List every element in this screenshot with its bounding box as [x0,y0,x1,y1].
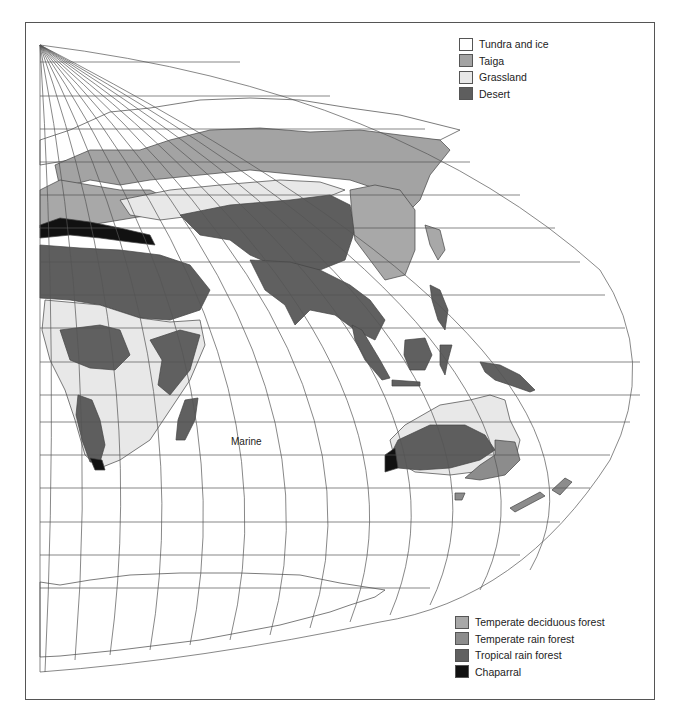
legend-label: Desert [479,88,510,100]
legend-label: Tundra and ice [479,38,549,50]
legend-item-temperate-rain-forest: Temperate rain forest [455,631,605,647]
legend-label: Chaparral [475,666,521,678]
temperate-rain-swatch [455,632,469,645]
grassland-swatch [459,71,473,84]
japan [425,225,445,260]
legend-label: Temperate rain forest [475,633,574,645]
legend-label: Tropical rain forest [475,649,562,661]
legend-item-tundra: Tundra and ice [459,36,549,52]
legend-label: Temperate deciduous forest [475,616,605,628]
tropical-rain-swatch [455,649,469,662]
legend-item-desert: Desert [459,86,549,102]
temperate-deciduous-east-asia [350,185,415,280]
legend-bottom: Temperate deciduous forest Temperate rai… [455,614,605,680]
chaparral-swatch [455,665,469,678]
taiga-swatch [459,54,473,67]
antarctica [40,573,385,657]
grassland-africa [42,300,205,468]
legend-top: Tundra and ice Taiga Grassland Desert [459,36,549,102]
madagascar [176,398,198,440]
temperate-deciduous-swatch [455,616,469,629]
land-regions [40,98,572,657]
legend-item-chaparral: Chaparral [455,664,605,680]
borneo [404,338,432,370]
legend-item-grassland: Grassland [459,69,549,85]
legend-label: Taiga [479,55,504,67]
new-guinea [480,362,535,392]
marine-label: Marine [231,436,262,447]
philippines [430,285,448,330]
desert-swatch [459,87,473,100]
legend-item-taiga: Taiga [459,53,549,69]
legend-item-temperate-deciduous-forest: Temperate deciduous forest [455,614,605,630]
tundra-swatch [459,38,473,51]
new-zealand [510,478,572,512]
legend-item-tropical-rain-forest: Tropical rain forest [455,647,605,663]
java [392,380,420,386]
legend-label: Grassland [479,71,527,83]
tasmania [455,493,465,500]
